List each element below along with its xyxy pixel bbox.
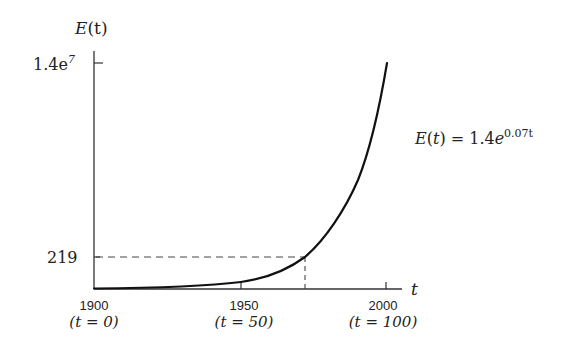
- equation-label: E(t) = 1.4e0.07t: [414, 127, 534, 148]
- x-tick-year-2000: 2000: [369, 298, 398, 313]
- y-tick-label-219: 219: [47, 248, 78, 267]
- x-tick-t-100: (t = 100): [349, 313, 418, 331]
- exponential-curve: [94, 63, 387, 289]
- x-tick-year-1950: 1950: [230, 298, 259, 313]
- x-axis-label: t: [411, 279, 418, 299]
- x-tick-year-1900: 1900: [80, 298, 109, 313]
- y-axis-label: E(t): [74, 18, 108, 38]
- exponential-growth-chart: E(t) t 1.4e7 219 1900 (t = 0) 1950 (t = …: [0, 0, 572, 356]
- x-tick-t-0: (t = 0): [69, 313, 119, 331]
- y-tick-label-max: 1.4e7: [33, 53, 75, 74]
- x-tick-t-50: (t = 50): [215, 313, 274, 331]
